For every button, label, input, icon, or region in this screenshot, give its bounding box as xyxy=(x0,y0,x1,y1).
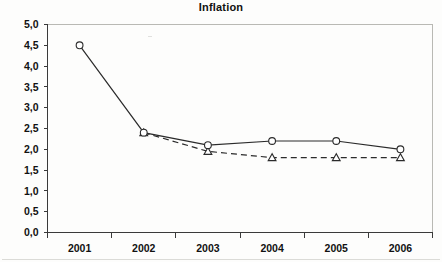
data-point-marker xyxy=(333,138,340,145)
data-point-marker xyxy=(140,129,147,136)
x-axis-tick-marks xyxy=(48,233,433,238)
y-axis-tick-label: 2,0 xyxy=(24,143,39,155)
x-axis-tick-label: 2004 xyxy=(260,242,284,254)
data-point-marker xyxy=(397,146,404,153)
scan-artifact-speck xyxy=(148,36,152,37)
data-point-marker xyxy=(76,42,83,49)
x-axis-tick-label: 2003 xyxy=(196,242,220,254)
y-axis-tick-label: 0,0 xyxy=(24,226,39,238)
chart-container: Inflation 0,00,51,01,52,02,53,03,54,04,5… xyxy=(0,0,442,262)
y-axis-tick-label: 2,5 xyxy=(24,122,39,134)
scan-artifact-edge xyxy=(2,259,440,260)
x-axis-tick-label: 2001 xyxy=(68,242,92,254)
data-point-marker xyxy=(269,138,276,145)
y-axis-tick-label: 0,5 xyxy=(24,205,39,217)
data-point-marker xyxy=(205,142,212,149)
y-axis-tick-label: 3,0 xyxy=(24,101,39,113)
series-solid-line xyxy=(80,45,401,149)
x-axis-tick-label: 2002 xyxy=(132,242,156,254)
inflation-line-chart: 0,00,51,01,52,02,53,03,54,04,55,0 200120… xyxy=(0,0,442,262)
y-axis-tick-marks xyxy=(44,25,48,233)
y-axis-tick-label: 1,0 xyxy=(24,185,39,197)
y-axis-tick-label: 4,5 xyxy=(24,39,39,51)
data-point-marker xyxy=(397,154,405,161)
series-1-markers xyxy=(76,42,404,153)
x-axis-tick-label: 2005 xyxy=(325,242,349,254)
y-axis-tick-label: 5,0 xyxy=(24,18,39,30)
x-axis-tick-labels: 200120022003200420052006 xyxy=(68,242,412,254)
plot-frame xyxy=(48,25,433,233)
y-axis-tick-label: 1,5 xyxy=(24,164,39,176)
y-axis-tick-label: 3,5 xyxy=(24,81,39,93)
x-axis-tick-label: 2006 xyxy=(389,242,413,254)
y-axis-tick-label: 4,0 xyxy=(24,60,39,72)
y-axis-tick-labels: 0,00,51,01,52,02,53,03,54,04,55,0 xyxy=(24,18,39,238)
